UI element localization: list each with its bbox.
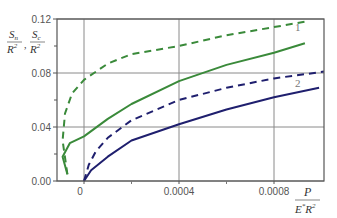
y-tick-label: 0.00 [32,176,52,187]
svg-text:P: P [303,185,312,199]
series-line [63,43,305,174]
curve-number-label: 2 [295,77,301,89]
axis-ticks: 0.000.040.080.1200.00040.0008 [32,14,290,198]
curves [63,22,324,181]
y-tick-label: 0.08 [32,68,52,79]
svg-text:,: , [24,39,27,50]
curve-labels: 12 [295,21,301,88]
gridlines [57,19,324,181]
y-tick-label: 0.04 [32,122,52,133]
series-line [84,88,319,181]
x-axis-label: P E*R2 [294,185,320,215]
x-tick-label: 0 [77,186,83,197]
x-tick-label: 0.0004 [164,186,195,197]
svg-text:Sn: Sn [9,28,19,42]
svg-text:R2: R2 [29,42,41,55]
plot-frame [57,19,324,181]
svg-text:Sc: Sc [32,28,42,42]
x-tick-label: 0.0008 [259,186,290,197]
y-axis-label: Sn R2 , Sc R2 [6,28,45,55]
curve-number-label: 1 [295,21,301,33]
y-tick-label: 0.12 [32,14,52,25]
chart: 0.000.040.080.1200.00040.0008 12 Sn R2 ,… [0,0,337,218]
svg-text:E*R2: E*R2 [294,202,316,215]
series-line [84,72,324,181]
svg-text:R2: R2 [6,42,18,55]
